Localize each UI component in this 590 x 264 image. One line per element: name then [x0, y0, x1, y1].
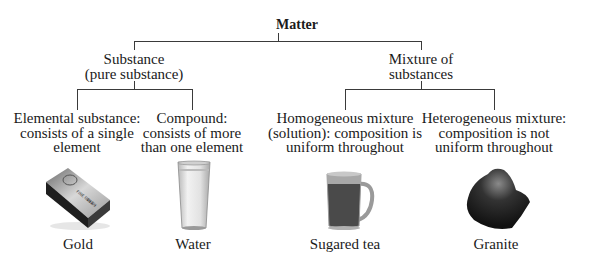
connector-substance-bar	[77, 89, 193, 90]
connector-to-mixture	[421, 41, 422, 50]
node-mixture: Mixture of substances	[389, 52, 454, 81]
connector-to-elemental	[77, 89, 78, 110]
node-elemental-line2: consists of a single	[13, 126, 140, 141]
node-substance-line1: Substance	[85, 52, 184, 67]
connector-level1-bar	[134, 41, 422, 42]
water-glass-icon	[176, 160, 212, 232]
node-homogeneous-line2: (solution): composition is	[268, 126, 422, 141]
connector-to-substance	[134, 41, 135, 50]
node-compound: Compound: consists of more than one elem…	[141, 111, 243, 155]
node-homogeneous-line3: uniform throughout	[268, 140, 422, 155]
connector-mixture-stem	[421, 81, 422, 89]
node-elemental-substance: Elemental substance: consists of a singl…	[13, 111, 140, 155]
connector-to-compound	[192, 89, 193, 110]
node-heterogeneous-line3: uniform throughout	[422, 140, 567, 155]
node-homogeneous-mixture: Homogeneous mixture (solution): composit…	[268, 111, 422, 155]
root-node-matter: Matter	[276, 18, 318, 33]
example-label-granite: Granite	[474, 237, 519, 252]
gold-bar-icon: FINE GOLD 999.9	[40, 160, 116, 232]
node-homogeneous-line1: Homogeneous mixture	[268, 111, 422, 126]
node-heterogeneous-line1: Heterogeneous mixture:	[422, 111, 567, 126]
node-heterogeneous-line2: composition is not	[422, 126, 567, 141]
tea-mug-icon	[324, 170, 376, 232]
node-elemental-line3: element	[13, 140, 140, 155]
example-label-sugared-tea: Sugared tea	[310, 237, 380, 252]
connector-to-heterogeneous	[494, 89, 495, 110]
node-heterogeneous-mixture: Heterogeneous mixture: composition is no…	[422, 111, 567, 155]
connector-mixture-bar	[345, 89, 495, 90]
node-compound-line3: than one element	[141, 140, 243, 155]
example-label-gold: Gold	[63, 237, 93, 252]
connector-root-stem	[278, 33, 279, 41]
node-elemental-line1: Elemental substance:	[13, 111, 140, 126]
connector-substance-stem	[134, 81, 135, 89]
node-substance-line2: (pure substance)	[85, 67, 184, 82]
node-compound-line1: Compound:	[141, 111, 243, 126]
example-label-water: Water	[175, 237, 210, 252]
granite-rock-icon	[462, 164, 534, 234]
node-substance: Substance (pure substance)	[85, 52, 184, 81]
node-mixture-line1: Mixture of	[389, 52, 454, 67]
node-mixture-line2: substances	[389, 67, 454, 82]
node-compound-line2: consists of more	[141, 126, 243, 141]
connector-to-homogeneous	[345, 89, 346, 110]
